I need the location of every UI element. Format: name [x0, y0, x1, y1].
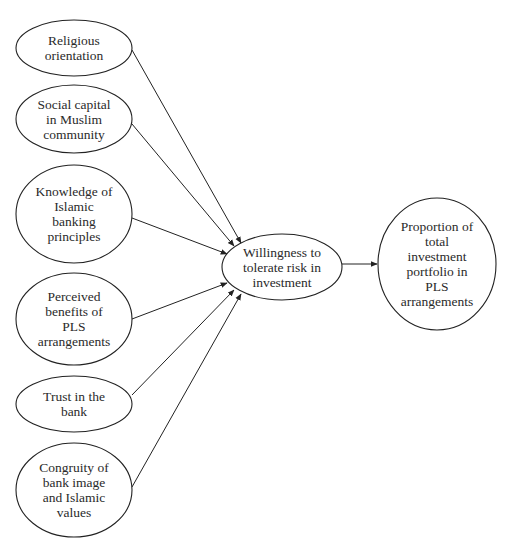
node-label-line: arrangements: [38, 334, 111, 349]
node-social: Social capitalin Muslimcommunity: [16, 85, 132, 153]
arrow-religious-to-willingness: [132, 50, 241, 243]
node-label-line: bank: [61, 404, 87, 419]
node-label-line: values: [57, 505, 92, 520]
nodes-group: ReligiousorientationSocial capitalin Mus…: [16, 20, 496, 537]
node-label-line: PLS: [62, 319, 85, 334]
arrow-trust-to-willingness: [132, 290, 234, 395]
node-label-line: investment: [252, 275, 311, 290]
node-label-line: Islamic: [54, 199, 94, 214]
node-label-line: tolerate risk in: [243, 260, 321, 275]
node-label-line: Proportion of: [401, 219, 474, 234]
node-label-line: total: [425, 234, 449, 249]
arrow-social-to-willingness: [132, 124, 234, 246]
node-willingness: Willingness totolerate risk ininvestment: [222, 234, 342, 300]
node-label-line: and Islamic: [43, 490, 106, 505]
node-label-line: benefits of: [45, 304, 103, 319]
path-diagram: ReligiousorientationSocial capitalin Mus…: [0, 0, 505, 544]
node-benefits: Perceivedbenefits ofPLSarrangements: [16, 273, 132, 365]
node-religious: Religiousorientation: [16, 20, 132, 76]
node-label-line: Congruity of: [39, 460, 109, 475]
node-proportion: Proportion oftotalinvestmentportfolio in…: [378, 198, 496, 330]
node-congruity: Congruity ofbank imageand Islamicvalues: [16, 443, 132, 537]
node-label-line: Perceived: [47, 289, 100, 304]
node-label-line: Trust in the: [43, 389, 105, 404]
node-label-line: Knowledge of: [36, 184, 113, 199]
node-label-line: banking: [52, 214, 96, 229]
node-label-line: community: [43, 127, 105, 142]
node-label-line: investment: [407, 249, 466, 264]
node-label-line: PLS: [425, 279, 448, 294]
node-label-line: in Muslim: [46, 112, 102, 127]
arrow-congruity-to-willingness: [132, 294, 241, 487]
node-trust: Trust in thebank: [16, 376, 132, 432]
arrow-benefits-to-willingness: [132, 283, 227, 319]
node-label-line: bank image: [43, 475, 106, 490]
node-label-line: Social capital: [37, 97, 110, 112]
node-label-line: principles: [47, 229, 100, 244]
node-label-line: Religious: [48, 33, 100, 48]
node-label-line: orientation: [45, 48, 104, 63]
node-label-line: Willingness to: [243, 245, 321, 260]
node-knowledge: Knowledge ofIslamicbankingprinciples: [16, 165, 132, 263]
arrow-knowledge-to-willingness: [132, 218, 227, 254]
node-label-line: portfolio in: [406, 264, 467, 279]
node-label-line: arrangements: [401, 294, 474, 309]
